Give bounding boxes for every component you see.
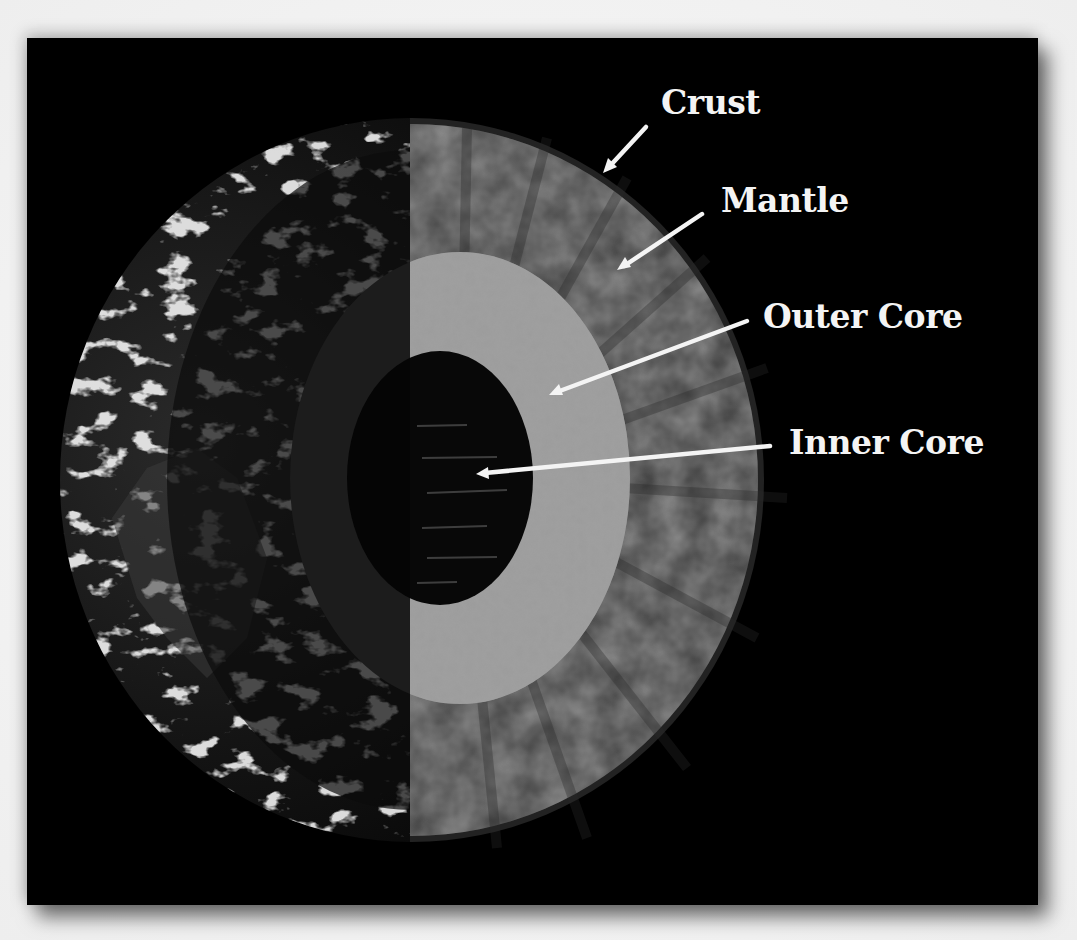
earth-cross-section [27,38,1038,905]
label-inner-core: Inner Core [789,426,984,459]
diagram-panel: Crust Mantle Outer Core Inner Core [27,38,1038,905]
label-mantle: Mantle [721,184,849,217]
crust-arrow [603,127,646,173]
label-outer-core: Outer Core [763,300,963,333]
label-crust: Crust [661,86,760,119]
page-background: Crust Mantle Outer Core Inner Core [0,0,1077,940]
